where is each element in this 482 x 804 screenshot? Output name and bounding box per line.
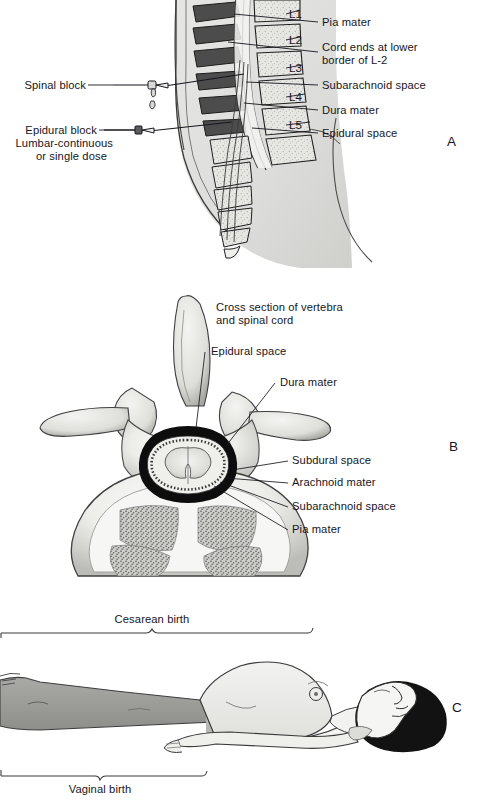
label-spinal-block: Spinal block — [0, 79, 86, 92]
panel-b-vertebra-cross-section: Cross section of vertebra and spinal cor… — [0, 270, 482, 580]
label-epidural-block-line2: Lumbar-continuous — [0, 137, 113, 150]
label-epidural-space-b: Epidural space — [211, 345, 286, 358]
label-dura-mater-a: Dura mater — [322, 104, 379, 117]
bracket-cesarean-birth — [1, 628, 313, 638]
label-vertebra-l4: L4 — [289, 91, 302, 103]
label-subdural-space: Subdural space — [292, 454, 371, 467]
panel-c-illustration — [0, 580, 482, 804]
sacrum-coccyx — [210, 136, 252, 258]
panel-letter-b: B — [449, 439, 458, 454]
vertebra-drawing — [40, 296, 331, 576]
label-cord-ends-line1: Cord ends at lower — [322, 41, 418, 54]
label-vertebra-l5: L5 — [289, 119, 302, 131]
label-cross-section-line2: and spinal cord — [216, 314, 293, 327]
label-vaginal-birth: Vaginal birth — [44, 783, 156, 796]
panel-letter-c: C — [452, 700, 462, 715]
label-dura-mater-b: Dura mater — [280, 376, 337, 389]
label-vertebra-l2: L2 — [289, 34, 302, 46]
panel-a-sagittal-spine: Spinal block Epidural block Lumbar-conti… — [0, 0, 482, 270]
panel-letter-a: A — [447, 134, 456, 149]
label-epidural-block-line3: or single dose — [0, 150, 107, 163]
label-pia-mater-b: Pia mater — [292, 523, 341, 536]
panel-c-supine-patient: Cesarean birth Vaginal birth C — [0, 580, 482, 804]
label-arachnoid-mater: Arachnoid mater — [292, 476, 376, 489]
label-pia-mater-a: Pia mater — [322, 16, 371, 29]
bracket-vaginal-birth — [1, 770, 207, 780]
label-cesarean-birth: Cesarean birth — [92, 613, 212, 626]
label-cord-ends-line2: border of L-2 — [322, 54, 387, 67]
label-vertebra-l3: L3 — [289, 62, 302, 74]
label-cross-section-line1: Cross section of vertebra — [216, 301, 343, 314]
legs — [0, 673, 214, 730]
label-subarachnoid-space-b: Subarachnoid space — [292, 500, 396, 513]
label-epidural-space-a: Epidural space — [322, 127, 397, 140]
label-subarachnoid-space-a: Subarachnoid space — [322, 79, 426, 92]
label-vertebra-l1: L1 — [289, 8, 302, 20]
label-epidural-block: Epidural block — [0, 124, 97, 137]
